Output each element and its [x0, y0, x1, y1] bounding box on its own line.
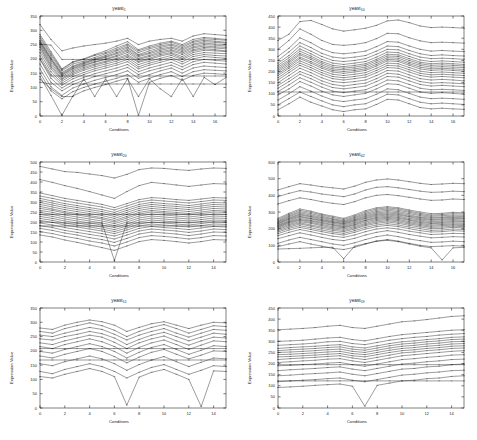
series-line: [278, 334, 464, 346]
y-tick-label: 400: [30, 180, 37, 185]
x-tick-label: 10: [400, 411, 405, 416]
series-line: [40, 77, 226, 96]
series-line: [278, 348, 464, 360]
plot-area: 05010015020025030035040045002468101214: [238, 292, 476, 438]
series-line: [40, 331, 226, 344]
x-tick-label: 16: [451, 265, 456, 270]
series-line: [40, 356, 226, 370]
y-axis-label: Expression Value: [247, 352, 252, 384]
y-axis-label: Expression Value: [9, 352, 14, 384]
x-tick-label: 0: [39, 119, 42, 124]
x-tick-label: 4: [321, 265, 324, 270]
series-line: [278, 59, 464, 74]
x-axis-label: Conditions: [0, 127, 238, 132]
plot-panel-yeast59: yeast59050100150200250300350400450024681…: [238, 292, 476, 438]
x-tick-label: 14: [191, 119, 196, 124]
y-axis-label: Expression Value: [247, 206, 252, 238]
plot-panel-yeast20: yeast20050100150200250300350400450500024…: [0, 146, 238, 292]
x-tick-label: 8: [126, 119, 129, 124]
x-tick-label: 6: [343, 265, 346, 270]
y-tick-label: 100: [30, 377, 37, 382]
series-line: [278, 87, 464, 102]
x-tick-label: 12: [187, 265, 192, 270]
plot-area: 0501001502002503003504004500246810121416: [238, 0, 476, 146]
x-axis-label: Conditions: [0, 273, 238, 278]
panel-title: yeast51: [0, 298, 238, 304]
y-tick-label: 150: [268, 80, 275, 85]
plot-area: 05010015020025030035002468101214: [0, 292, 238, 438]
x-axis-label: Conditions: [0, 419, 238, 424]
axes-frame: [40, 308, 226, 408]
plot-panel-yeast42: yeast4201002003004005006000246810121416E…: [238, 146, 476, 292]
y-tick-label: 300: [268, 339, 275, 344]
x-tick-label: 6: [105, 119, 108, 124]
x-tick-label: 10: [147, 119, 152, 124]
x-tick-label: 10: [385, 119, 390, 124]
x-tick-label: 2: [299, 119, 302, 124]
y-tick-label: 300: [30, 200, 37, 205]
x-tick-label: 4: [88, 265, 91, 270]
y-tick-label: 50: [33, 99, 38, 104]
y-tick-label: 250: [268, 58, 275, 63]
series-line: [278, 376, 464, 406]
y-tick-label: 0: [273, 406, 276, 411]
y-tick-label: 250: [30, 334, 37, 339]
x-tick-label: 0: [39, 411, 42, 416]
x-tick-label: 10: [385, 265, 390, 270]
series-line: [40, 70, 226, 99]
x-tick-label: 6: [351, 411, 354, 416]
x-tick-label: 2: [64, 411, 67, 416]
series-line: [40, 222, 226, 260]
x-axis-label: Conditions: [238, 419, 476, 424]
y-tick-label: 450: [30, 170, 37, 175]
panel-title-subscript: 1: [124, 8, 126, 12]
series-line: [278, 195, 464, 205]
x-tick-label: 12: [187, 411, 192, 416]
series-line: [40, 59, 226, 76]
y-tick-label: 350: [30, 306, 37, 311]
y-tick-label: 150: [30, 363, 37, 368]
y-tick-label: 200: [30, 220, 37, 225]
x-tick-label: 10: [162, 265, 167, 270]
x-tick-label: 2: [302, 411, 305, 416]
x-tick-label: 12: [169, 119, 174, 124]
y-tick-label: 200: [268, 226, 275, 231]
x-tick-label: 4: [326, 411, 329, 416]
y-tick-label: 250: [30, 210, 37, 215]
x-tick-label: 6: [113, 265, 116, 270]
series-line: [278, 339, 464, 351]
y-axis-label: Expression Value: [9, 60, 14, 92]
y-tick-label: 300: [30, 28, 37, 33]
series-line: [278, 20, 464, 40]
y-tick-label: 350: [268, 36, 275, 41]
plot-area: 0501001502002503003504004505000246810121…: [0, 146, 238, 292]
series-line: [278, 231, 464, 241]
y-tick-label: 0: [35, 260, 38, 265]
x-tick-label: 16: [451, 119, 456, 124]
series-line: [40, 40, 226, 72]
x-tick-label: 14: [211, 265, 216, 270]
x-tick-label: 14: [449, 411, 454, 416]
y-tick-label: 0: [273, 260, 276, 265]
series-line: [278, 337, 464, 349]
y-tick-label: 250: [30, 42, 37, 47]
panel-title-text: yeast: [349, 298, 360, 303]
x-tick-label: 2: [299, 265, 302, 270]
y-tick-label: 400: [268, 317, 275, 322]
y-tick-label: 100: [30, 240, 37, 245]
y-tick-label: 50: [271, 102, 276, 107]
series-line: [278, 316, 464, 330]
y-axis-label: Expression Value: [247, 60, 252, 92]
series-line: [40, 364, 226, 378]
series-line: [278, 235, 464, 245]
plot-panel-yeast51: yeast5105010015020025030035002468101214E…: [0, 292, 238, 438]
y-tick-label: 500: [30, 160, 37, 165]
y-tick-label: 400: [268, 193, 275, 198]
y-tick-label: 150: [30, 230, 37, 235]
y-tick-label: 50: [33, 250, 38, 255]
y-tick-label: 50: [33, 391, 38, 396]
x-tick-label: 12: [425, 411, 430, 416]
panel-title-subscript: 51: [123, 300, 127, 304]
y-axis-label: Expression Value: [9, 206, 14, 238]
series-line: [40, 193, 226, 208]
